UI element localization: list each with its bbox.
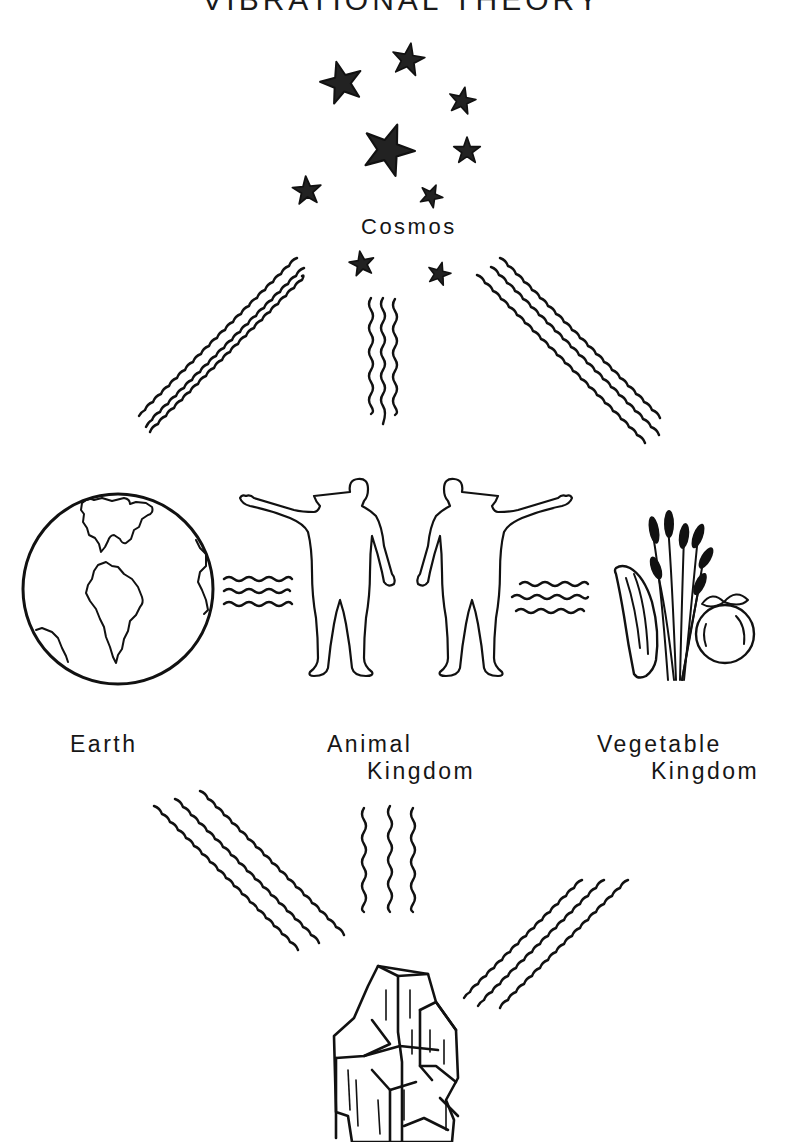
animal-label-line2: Kingdom — [327, 758, 475, 785]
vegetable-kingdom-label: Vegetable Kingdom — [597, 731, 759, 785]
globe-icon — [23, 494, 213, 684]
wave-cosmos-vegetable — [477, 258, 660, 443]
crystal-icon — [334, 966, 458, 1142]
stars-icon — [291, 40, 480, 286]
animal-label-line1: Animal — [327, 731, 475, 758]
wave-earth-animal — [224, 577, 292, 606]
wave-animal-vegetable — [512, 582, 588, 613]
wave-vegetable-mineral — [464, 880, 628, 1008]
wave-cosmos-animal — [369, 298, 397, 424]
cosmos-label: Cosmos — [361, 213, 457, 240]
vegetable-label-line2: Kingdom — [597, 758, 759, 785]
vegetable-label-line1: Vegetable — [597, 731, 759, 758]
plants-icon — [615, 510, 754, 680]
wave-earth-mineral — [154, 791, 344, 950]
diagram-canvas — [0, 0, 804, 1142]
animal-kingdom-label: Animal Kingdom — [327, 731, 475, 785]
wheat-heads — [647, 510, 717, 597]
wave-animal-mineral — [362, 806, 415, 912]
earth-label: Earth — [70, 731, 137, 758]
wave-cosmos-earth — [139, 258, 304, 432]
